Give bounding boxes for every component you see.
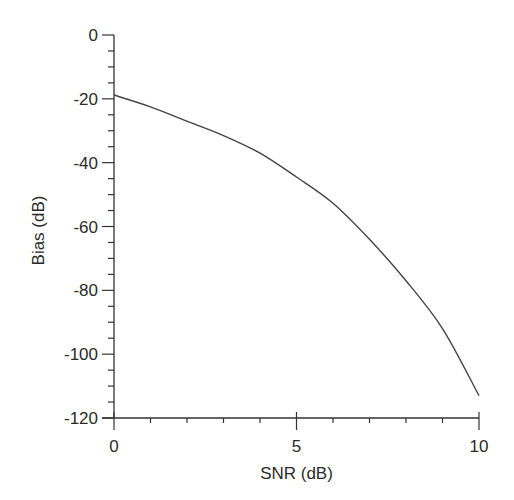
bias-curve (114, 95, 479, 396)
y-tick-label: -60 (73, 218, 98, 237)
y-axis-ticks: 0-20-40-60-80-100-120 (64, 26, 114, 428)
x-tick-label: 0 (109, 437, 118, 456)
y-tick-label: -120 (64, 409, 98, 428)
y-tick-label: -20 (73, 90, 98, 109)
y-tick-label: -100 (64, 345, 98, 364)
x-tick-label: 10 (470, 437, 489, 456)
y-tick-label: -80 (73, 281, 98, 300)
y-tick-label: -40 (73, 154, 98, 173)
y-axis-label: Bias (dB) (29, 196, 48, 266)
x-tick-label: 5 (292, 437, 301, 456)
bias-vs-snr-chart: 0-20-40-60-80-100-120 0510 SNR (dB) Bias… (0, 0, 514, 500)
y-tick-label: 0 (89, 26, 98, 45)
x-axis-label: SNR (dB) (260, 464, 333, 483)
